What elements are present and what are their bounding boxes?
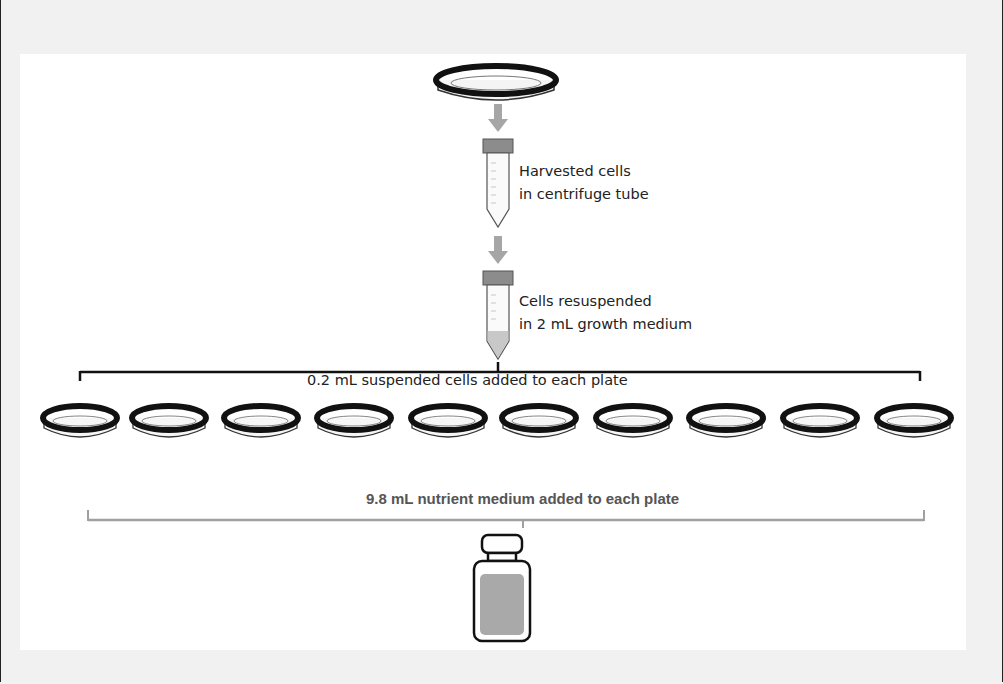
down-arrow-icon (487, 104, 509, 134)
petri-dish-icon (877, 406, 951, 437)
petri-dish-icon (689, 406, 763, 437)
petri-dish-icon (432, 58, 560, 108)
petri-dish-icon (317, 406, 391, 437)
resuspended-cells-label: Cells resuspended in 2 mL growth medium (519, 290, 692, 336)
petri-dish-icon (502, 406, 576, 437)
distribution-label: 0.2 mL suspended cells added to each pla… (307, 369, 628, 392)
centrifuge-tube-filled-icon (482, 271, 514, 361)
harvested-cells-label: Harvested cells in centrifuge tube (519, 160, 649, 206)
petri-dish-icon (132, 406, 206, 437)
petri-dish-icon (411, 406, 485, 437)
nutrient-bracket (86, 508, 926, 528)
nutrient-bottle-icon (470, 532, 534, 644)
petri-dish-row (40, 400, 960, 450)
down-arrow-icon (487, 236, 509, 266)
petri-dish-icon (596, 406, 670, 437)
petri-dish-icon (783, 406, 857, 437)
nutrient-label: 9.8 mL nutrient medium added to each pla… (366, 490, 679, 507)
centrifuge-tube-icon (482, 139, 514, 229)
petri-dish-icon (224, 406, 298, 437)
petri-dish-icon (43, 406, 117, 437)
